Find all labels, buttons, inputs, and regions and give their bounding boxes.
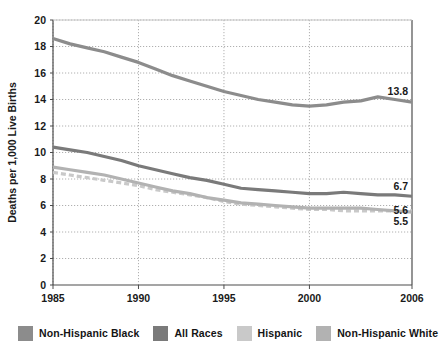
series-end-label: 13.8 — [388, 85, 409, 97]
y-tick-label: 8 — [40, 173, 46, 185]
y-tick-label: 12 — [34, 120, 46, 132]
chart-legend: Non-Hispanic BlackAll RacesHispanicNon-H… — [0, 318, 445, 348]
legend-swatch-icon — [153, 326, 168, 341]
legend-swatch-icon — [237, 326, 252, 341]
series-line — [53, 172, 412, 210]
legend-swatch-icon — [316, 326, 331, 341]
series-line — [53, 167, 412, 212]
y-tick-label: 4 — [40, 226, 46, 238]
y-tick-label: 0 — [40, 279, 46, 291]
series-end-label: 6.7 — [393, 180, 408, 192]
y-tick-label: 2 — [40, 252, 46, 264]
x-tick-label: 1995 — [212, 292, 236, 304]
y-axis-title: Deaths per 1,000 Live Births — [6, 82, 18, 223]
data-labels: 13.86.75.65.5 — [388, 85, 409, 227]
legend-item: Non-Hispanic White — [316, 326, 438, 341]
x-tick-label: 2000 — [298, 292, 322, 304]
y-tick-label: 10 — [34, 146, 46, 158]
y-tick-label: 14 — [34, 93, 46, 105]
y-tick-labels: 02468101214161820 — [34, 14, 53, 291]
legend-item: Hispanic — [237, 326, 303, 341]
legend-swatch-icon — [18, 326, 33, 341]
series-lines — [53, 39, 412, 213]
y-tick-label: 16 — [34, 67, 46, 79]
y-tick-label: 6 — [40, 199, 46, 211]
legend-item: Non-Hispanic Black — [18, 326, 139, 341]
gridlines — [53, 20, 412, 285]
axes — [53, 20, 412, 285]
legend-item-label: Non-Hispanic White — [337, 327, 438, 339]
x-tick-label: 2006 — [400, 292, 424, 304]
series-line — [53, 147, 412, 196]
y-tick-label: 20 — [34, 14, 46, 26]
infant-mortality-line-chart: 0246810121416182019851990199520002006Dea… — [0, 0, 445, 360]
series-end-label: 5.5 — [393, 215, 408, 227]
x-tick-labels: 19851990199520002006 — [41, 285, 424, 304]
chart-plot-area: 0246810121416182019851990199520002006Dea… — [0, 0, 445, 310]
legend-item-label: Hispanic — [258, 327, 303, 339]
y-tick-label: 18 — [34, 40, 46, 52]
x-tick-label: 1990 — [127, 292, 151, 304]
legend-item: All Races — [153, 326, 222, 341]
series-line — [53, 39, 412, 107]
legend-item-label: Non-Hispanic Black — [39, 327, 139, 339]
legend-item-label: All Races — [174, 327, 222, 339]
x-tick-label: 1985 — [41, 292, 65, 304]
line-chart-svg: 0246810121416182019851990199520002006Dea… — [0, 0, 445, 310]
